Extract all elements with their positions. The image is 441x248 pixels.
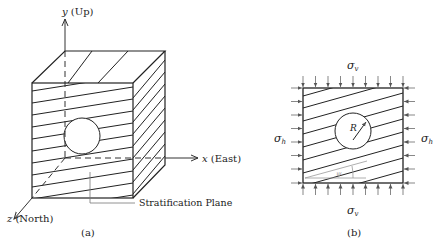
stratification-plane-label: Stratification Plane [139,197,233,208]
sigma-v-bottom-label: σv [347,204,359,218]
top-face-edge [32,51,165,83]
y-axis-label: y (Up) [61,6,94,17]
panel-a-block-diagram: y (Up) x (East) z (North) Stratification… [6,6,241,238]
z-axis-hidden [32,158,65,198]
panel-b-stress-diagram: ψ R [274,59,433,238]
caption-a: (a) [81,227,95,238]
right-load-arrows [404,88,415,183]
left-load-arrows [291,88,302,183]
angle-label: ψ [336,170,342,178]
borehole-circle [64,118,100,154]
sigma-v-top-label: σv [347,59,359,73]
sigma-h-right-label: σh [421,132,433,146]
caption-b: (b) [347,227,361,238]
radius-label: R [349,123,357,133]
figure: y (Up) x (East) z (North) Stratification… [0,0,441,248]
bottom-load-arrows [303,184,403,195]
side-face-strata [133,60,165,206]
top-face-strata [68,51,128,83]
sigma-h-left-label: σh [274,132,286,146]
z-axis-label: z (North) [6,213,53,224]
x-axis-label: x (East) [202,153,241,164]
top-load-arrows [303,76,403,87]
